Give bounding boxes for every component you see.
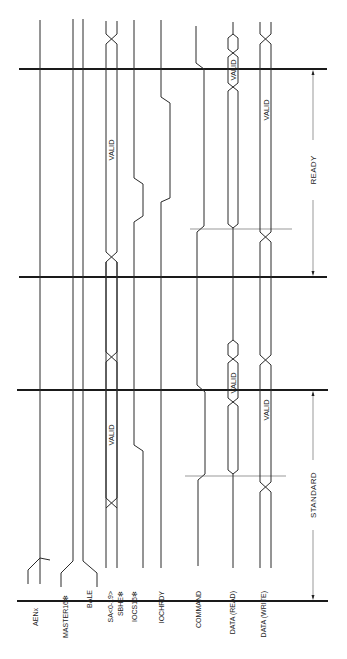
- valid-labels: VALID VALID VALID VALID VALID VALID: [107, 59, 271, 446]
- label-data-read: DATA (READ): [229, 591, 237, 634]
- label-iocs16: IOCS16✻: [131, 591, 138, 622]
- signal-iochrdy: [161, 20, 170, 568]
- valid-address-ready: VALID: [107, 139, 116, 161]
- valid-read-ready: VALID: [229, 59, 238, 81]
- ready-label: READY: [309, 155, 318, 184]
- signal-sa-bus: [106, 21, 117, 568]
- label-sbhe: SBHE✻: [117, 591, 124, 616]
- valid-write-standard: VALID: [262, 399, 271, 421]
- valid-address-standard: VALID: [107, 424, 116, 446]
- label-command: COMMAND: [195, 591, 202, 628]
- signal-data-read: [228, 22, 238, 568]
- signal-iocs16: [134, 20, 143, 568]
- valid-read-standard: VALID: [229, 372, 238, 394]
- standard-label: STANDARD: [309, 472, 318, 518]
- standard-annotation: STANDARD: [309, 391, 318, 600]
- arrow-down-icon: [312, 595, 315, 600]
- label-master16: MASTER16✻: [62, 595, 69, 638]
- label-iochrdy: IOCHRDY: [158, 591, 165, 624]
- arrow-up-icon: [312, 70, 315, 75]
- signal-master16: [61, 19, 73, 587]
- valid-write-ready: VALID: [262, 99, 271, 121]
- signal-labels: AENx MASTER16✻ BALE SA<0-19> SBHE✻ IOCS1…: [32, 590, 268, 638]
- ready-annotation: READY: [309, 70, 318, 276]
- label-data-write: DATA (WRITE): [260, 591, 268, 637]
- arrow-up-icon: [312, 391, 315, 396]
- label-sa: SA<0-19>: [107, 591, 114, 623]
- label-aen: AENx: [32, 608, 39, 626]
- cycle-boundaries: [17, 69, 328, 601]
- signal-aen: [28, 20, 50, 584]
- label-bale: BALE: [86, 590, 93, 608]
- isa-bus-timing-diagram: VALID VALID VALID VALID VALID VALID READ…: [0, 0, 347, 659]
- arrow-down-icon: [312, 271, 315, 276]
- signal-bale: [83, 19, 97, 587]
